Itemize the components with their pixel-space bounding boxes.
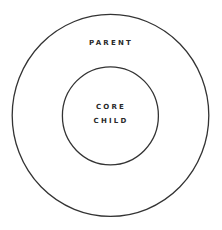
core-label: CORE — [61, 104, 161, 111]
nested-circle-diagram — [0, 0, 222, 230]
inner-circle-core-child — [62, 67, 158, 165]
child-label: CHILD — [61, 118, 161, 125]
parent-label: PARENT — [61, 40, 161, 47]
